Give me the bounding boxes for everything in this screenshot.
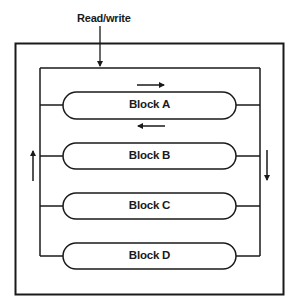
diagram-canvas: Read/write Block A Block B Block C Block… [0,0,297,306]
block-c-label: Block C [63,199,236,211]
read-write-label: Read/write [77,12,131,24]
block-d-label: Block D [63,249,236,261]
block-a-label: Block A [63,98,236,110]
block-b-label: Block B [63,149,236,161]
